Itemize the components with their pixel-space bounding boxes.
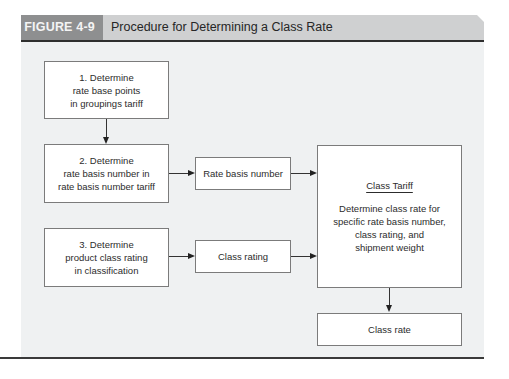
rate-basis-number-label: Rate basis number — [203, 167, 283, 180]
step3-line-3: in classification — [75, 264, 139, 277]
class-tariff-line-1: Determine class rate for — [339, 202, 440, 215]
arrow-right-icon — [310, 253, 317, 259]
connector-step2-ratebasis — [169, 173, 189, 174]
rate-basis-number-box: Rate basis number — [195, 157, 291, 190]
connector-step3-classrating — [169, 256, 189, 257]
class-rate-box: Class rate — [317, 313, 462, 346]
arrow-right-icon — [188, 170, 195, 176]
step2-line-3: rate basis number tariff — [58, 180, 155, 193]
step2-line-2: rate basis number in — [63, 167, 149, 180]
connector-step1-step2 — [106, 119, 107, 138]
class-rating-box: Class rating — [195, 240, 291, 273]
step2-line-1: 2. Determine — [79, 154, 133, 167]
step3-line-2: product class rating — [65, 251, 147, 264]
step1-line-2: rate base points — [73, 84, 141, 97]
connector-ratebasis-tariff — [291, 173, 311, 174]
step1-box: 1. Determine rate base points in groupin… — [44, 61, 169, 119]
class-rating-label: Class rating — [218, 250, 268, 263]
arrow-right-icon — [188, 253, 195, 259]
step1-line-3: in groupings tariff — [70, 97, 143, 110]
step1-line-1: 1. Determine — [79, 71, 133, 84]
connector-tariff-classrate — [389, 288, 390, 306]
connector-classrating-tariff — [291, 256, 311, 257]
class-tariff-box: Class Tariff Determine class rate for sp… — [317, 145, 462, 288]
class-tariff-line-4: shipment weight — [355, 241, 424, 254]
figure-banner: FIGURE 4-9 Procedure for Determining a C… — [21, 15, 484, 40]
arrow-down-icon — [103, 137, 109, 144]
class-tariff-heading: Class Tariff — [366, 179, 413, 192]
arrow-down-icon — [386, 305, 392, 312]
bottom-divider — [0, 357, 484, 359]
step3-box: 3. Determine product class rating in cla… — [44, 228, 169, 287]
figure-label: FIGURE 4-9 — [21, 15, 103, 40]
class-tariff-line-2: specific rate basis number, — [333, 215, 445, 228]
class-tariff-line-3: class rating, and — [355, 228, 424, 241]
step2-box: 2. Determine rate basis number in rate b… — [44, 144, 169, 203]
arrow-right-icon — [310, 170, 317, 176]
figure-title: Procedure for Determining a Class Rate — [111, 15, 333, 40]
step3-line-1: 3. Determine — [79, 238, 133, 251]
class-rate-label: Class rate — [368, 323, 411, 336]
